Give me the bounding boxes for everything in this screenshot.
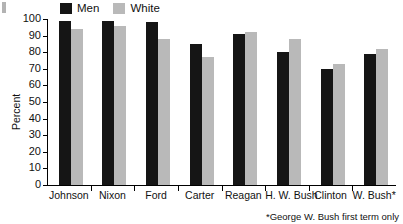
plot-area: 1009080706050403020100 JohnsonNixonFordC…	[47, 19, 396, 186]
bar-white	[289, 39, 301, 185]
y-tick	[43, 102, 47, 103]
bar-white	[71, 29, 83, 185]
bar-men	[146, 22, 158, 185]
bar-group	[190, 19, 214, 185]
y-tick	[43, 69, 47, 70]
x-axis-label: Reagan	[222, 189, 266, 201]
x-axis-label: H. W. Bush	[265, 189, 309, 201]
x-axis-separator-tick	[134, 186, 135, 191]
bar-white	[376, 49, 388, 185]
x-axis-label: Carter	[178, 189, 222, 201]
bar-men	[102, 21, 114, 185]
y-tick-label-text: 30	[0, 129, 41, 140]
legend-label-men: Men	[77, 3, 99, 14]
legend-swatch-men	[60, 3, 72, 14]
y-tick	[43, 52, 47, 53]
bar-men	[321, 69, 333, 185]
y-tick-label-text: 60	[0, 79, 41, 90]
y-tick	[43, 168, 47, 169]
bar-group	[321, 19, 345, 185]
bar-men	[190, 44, 202, 185]
bar-group	[364, 19, 388, 185]
y-tick	[43, 36, 47, 37]
y-tick-label-text: 40	[0, 113, 41, 124]
x-axis-separator-tick	[265, 186, 266, 191]
chart-footnote: *George W. Bush first term only	[266, 211, 399, 222]
x-axis-label: Clinton	[309, 189, 353, 201]
bar-group	[102, 19, 126, 185]
bar-group	[277, 19, 301, 185]
bar-men	[59, 21, 71, 185]
x-axis-label: Nixon	[91, 189, 135, 201]
y-tick	[43, 185, 47, 186]
y-tick-label-text: 0	[0, 179, 41, 190]
y-tick	[43, 119, 47, 120]
bar-group	[233, 19, 257, 185]
x-axis-separator-tick	[91, 186, 92, 191]
x-axis-label: Ford	[134, 189, 178, 201]
legend-item-white: White	[113, 3, 159, 14]
y-tick-label-text: 80	[0, 46, 41, 57]
x-axis-separator-tick	[222, 186, 223, 191]
bar-men	[364, 54, 376, 185]
legend-swatch-white	[113, 3, 125, 14]
x-axis-separator-tick	[309, 186, 310, 191]
bar-white	[158, 39, 170, 185]
legend-item-men: Men	[60, 3, 99, 14]
y-tick	[43, 19, 47, 20]
y-tick-label-text: 90	[0, 30, 41, 41]
y-tick-label-text: 20	[0, 146, 41, 157]
x-axis-separator-tick	[352, 186, 353, 191]
y-axis-line	[47, 19, 48, 186]
x-axis-label: Johnson	[47, 189, 91, 201]
y-tick	[43, 135, 47, 136]
bar-men	[277, 52, 289, 185]
bar-group	[59, 19, 83, 185]
bar-white	[245, 32, 257, 185]
bar-white	[202, 57, 214, 185]
y-tick-label-text: 50	[0, 96, 41, 107]
crop-artifact-mark	[2, 2, 6, 13]
bar-men	[233, 34, 245, 185]
bar-chart: Men White Percent 1009080706050403020100…	[0, 0, 403, 224]
y-tick-label-text: 10	[0, 162, 41, 173]
legend-label-white: White	[130, 3, 159, 14]
y-tick	[43, 152, 47, 153]
bar-white	[114, 26, 126, 185]
y-tick	[43, 85, 47, 86]
y-tick-label-text: 100	[0, 13, 41, 24]
bar-group	[146, 19, 170, 185]
bar-white	[333, 64, 345, 185]
y-tick-label-text: 70	[0, 63, 41, 74]
x-axis-separator-tick	[178, 186, 179, 191]
x-axis-label: W. Bush*	[352, 189, 396, 201]
chart-legend: Men White	[60, 1, 160, 15]
